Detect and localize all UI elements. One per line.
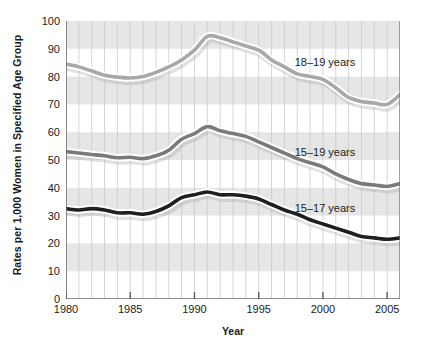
y-axis-title-container: Rates per 1,000 Women in Specified Age G… <box>0 0 34 310</box>
y-tick-label: 60 <box>30 126 60 138</box>
y-tick-label: 90 <box>30 43 60 55</box>
y-tick-label: 40 <box>30 182 60 194</box>
y-tick-label: 10 <box>30 265 60 277</box>
y-tick-label: 100 <box>30 15 60 27</box>
annotation-15-17-years: 15–17 years <box>295 202 356 214</box>
x-tick-label: 2005 <box>375 303 399 315</box>
annotation-15-19-years: 15–19 years <box>295 146 356 158</box>
y-axis-tick-labels: 0102030405060708090100 <box>30 0 60 350</box>
y-tick-label: 50 <box>30 154 60 166</box>
teen-birth-rate-line-chart: Rates per 1,000 Women in Specified Age G… <box>0 0 421 350</box>
x-tick-label: 1995 <box>246 303 270 315</box>
y-tick-label: 80 <box>30 71 60 83</box>
x-axis-title: Year <box>66 325 400 337</box>
y-axis-title: Rates per 1,000 Women in Specified Age G… <box>11 35 23 276</box>
annotation-18-19-years: 18–19 years <box>295 56 356 68</box>
y-tick-label: 30 <box>30 210 60 222</box>
x-tick-label: 1980 <box>54 303 78 315</box>
y-tick-label: 70 <box>30 98 60 110</box>
y-tick-label: 20 <box>30 237 60 249</box>
x-tick-label: 1985 <box>118 303 142 315</box>
x-tick-label: 2000 <box>311 303 335 315</box>
x-tick-label: 1990 <box>182 303 206 315</box>
